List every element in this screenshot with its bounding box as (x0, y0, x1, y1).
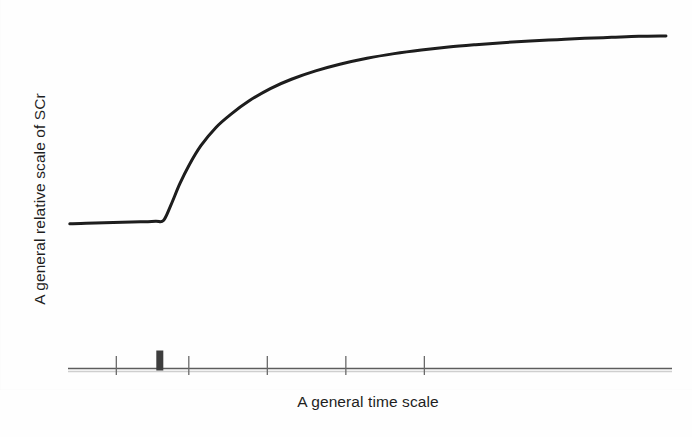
y-axis-title: A general relative scale of SCr (26, 29, 54, 369)
event-marker-bar (156, 351, 163, 371)
chart-canvas (0, 0, 692, 390)
scr-curve-line (70, 36, 666, 224)
scr-curve-ink-bleed (70, 36, 666, 224)
chart-figure: A general relative scale of SCr A genera… (0, 0, 692, 437)
x-axis-title: A general time scale (68, 393, 668, 411)
plot-area (0, 0, 692, 390)
